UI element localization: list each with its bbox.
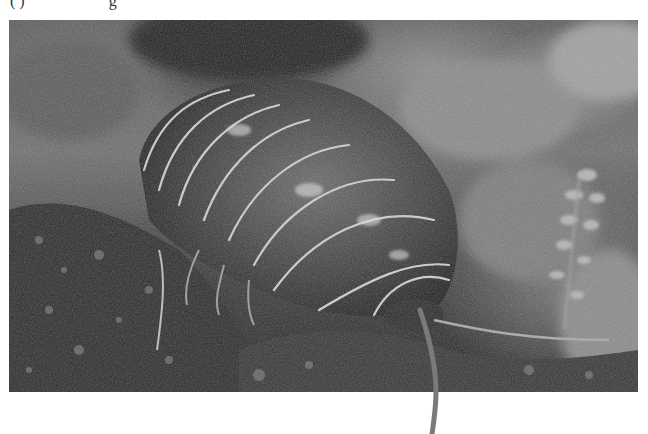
- caption-fragment: ( ) g: [10, 0, 117, 10]
- photo-illustration: [9, 20, 638, 392]
- pill-bug-photo: [9, 20, 638, 392]
- film-grain: [9, 20, 638, 392]
